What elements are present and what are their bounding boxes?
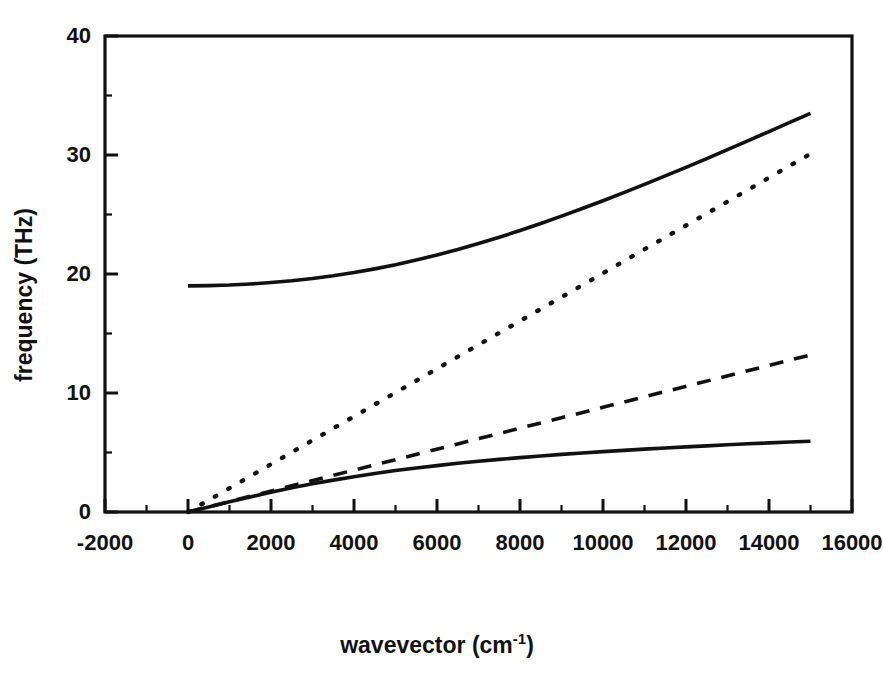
x-tick-label: 4000 (330, 530, 379, 556)
x-tick-label: 0 (182, 530, 194, 556)
x-tick-label: 8000 (496, 530, 545, 556)
x-tick-label: 12000 (655, 530, 716, 556)
x-axis-label-tail: ) (526, 632, 534, 658)
x-axis-label-exponent: -1 (513, 630, 526, 647)
x-tick-label: 10000 (572, 530, 633, 556)
x-tick-label: 14000 (738, 530, 799, 556)
y-tick-label: 0 (13, 499, 91, 525)
x-axis-label: wavevector (cm-1) (0, 630, 874, 659)
plot-frame (105, 36, 852, 512)
y-tick-label: 40 (13, 23, 91, 49)
x-tick-label: 2000 (247, 530, 296, 556)
x-tick-label: -2000 (77, 530, 133, 556)
y-axis-label: frequency (THz) (11, 208, 38, 382)
x-axis-label-main: wavevector (cm (340, 632, 513, 658)
x-tick-label: 6000 (413, 530, 462, 556)
x-tick-label: 16000 (821, 530, 882, 556)
y-axis-label-wrapper: frequency (THz) (11, 145, 45, 445)
